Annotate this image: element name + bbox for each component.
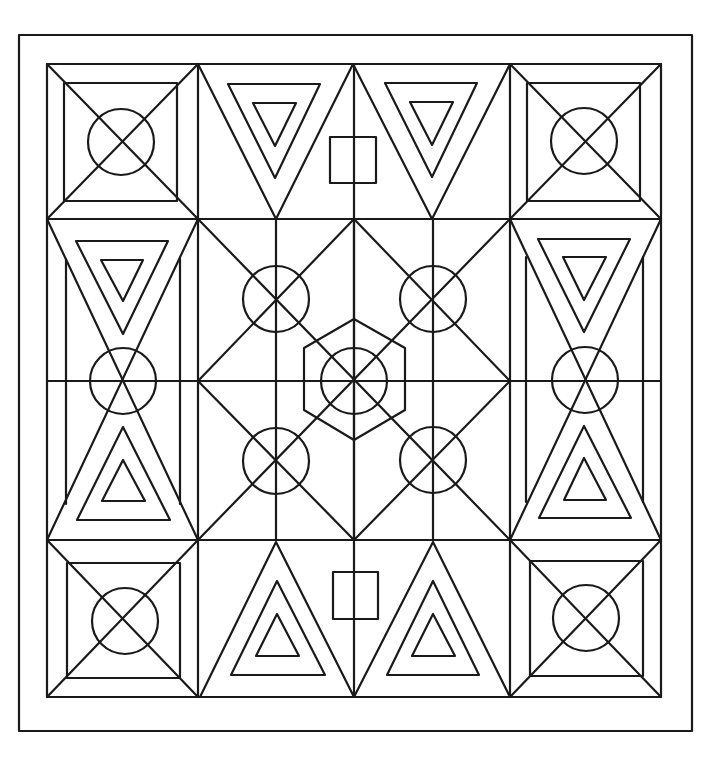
side-triangle-inner — [102, 460, 145, 501]
side-triangle-inner — [101, 260, 143, 301]
side-triangle-inner — [563, 257, 606, 300]
coloring-pattern-canvas — [0, 0, 723, 758]
bottom-square — [333, 572, 378, 619]
bottom-triangle-inner — [412, 614, 455, 656]
bottom-triangle-inner — [256, 614, 299, 656]
top-triangle-inner — [253, 103, 296, 146]
top-triangle-middle — [228, 84, 320, 178]
side-triangle-middle — [76, 241, 168, 334]
top-triangle-middle — [385, 83, 477, 177]
side-triangle-middle — [538, 239, 630, 332]
side-triangle-middle — [77, 427, 170, 520]
geometric-pattern — [0, 0, 723, 758]
bottom-triangle-middle — [231, 581, 325, 675]
bottom-triangle-middle — [387, 581, 479, 675]
side-triangle-middle — [539, 426, 631, 518]
top-triangle-inner — [410, 102, 453, 145]
bottom-triangle-outer — [200, 542, 354, 697]
side-triangle-inner — [564, 458, 606, 500]
